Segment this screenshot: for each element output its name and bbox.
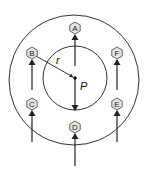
node-E-label: E [114, 100, 119, 109]
node-E: E [112, 98, 122, 110]
center-point [73, 76, 77, 80]
node-A-label: A [72, 24, 78, 33]
node-C: C [27, 98, 37, 110]
node-F-label: F [115, 49, 120, 58]
node-B-label: B [29, 49, 34, 58]
node-D: D [70, 121, 80, 133]
node-C-label: C [29, 100, 35, 109]
center-point-label: P [80, 80, 88, 92]
node-D-label: D [72, 123, 78, 132]
field-diagram: r P A B C D E F [0, 0, 146, 178]
radius-label: r [56, 54, 61, 66]
radius-line [36, 56, 73, 77]
node-B: B [27, 47, 37, 59]
node-A: A [70, 22, 80, 34]
node-F: F [112, 47, 122, 59]
